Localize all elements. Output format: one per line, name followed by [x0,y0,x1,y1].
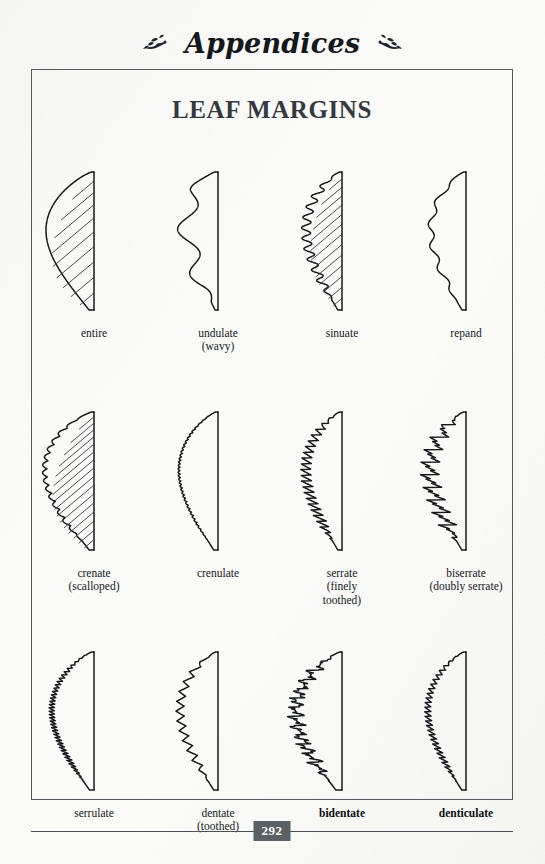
leaf-diagram-sinuate [280,166,404,318]
label-term: entire [81,327,107,339]
label-term: sinuate [326,327,359,339]
label-term: denticulate [439,807,493,819]
leaf-margin-label-denticulate: denticulate [439,807,493,820]
leaf-margin-label-serrulate: serrulate [74,807,114,820]
leaf-margin-label-serrate: serrate(finelytoothed) [323,567,361,607]
leaf-diagram-crenate [32,406,156,558]
leaf-diagram-bidentate [280,646,404,798]
leaf-margin-cell-undulate: undulate(wavy) [156,166,280,406]
label-synonym: toothed) [323,594,361,607]
label-term: bidentate [319,807,365,819]
label-term: serrulate [74,807,114,819]
leaf-margin-label-crenulate: crenulate [197,567,239,580]
label-term: repand [450,327,481,339]
leaf-diagram-biserrate [404,406,528,558]
leaf-margin-cell-entire: entire [32,166,156,406]
leaf-margin-cell-biserrate: biserrate(doubly serrate) [404,406,528,646]
leaf-diagram-entire [32,166,156,318]
leaf-margin-cell-repand: repand [404,166,528,406]
leaf-diagram-serrulate [32,646,156,798]
leaf-margin-label-crenate: crenate(scalloped) [68,567,119,594]
running-head: Appendices [0,24,545,66]
label-term: undulate [198,327,238,339]
page-number: 292 [254,821,291,841]
label-term: crenate [77,567,110,579]
running-head-title: Appendices [185,30,360,60]
leaf-margin-label-sinuate: sinuate [326,327,359,340]
leaf-diagram-denticulate [404,646,528,798]
leaf-margin-cell-crenulate: crenulate [156,406,280,646]
label-term: dentate [201,807,234,819]
page-title: LEAF MARGINS [32,96,512,124]
label-term: crenulate [197,567,239,579]
leaf-margin-label-repand: repand [450,327,481,340]
leaf-diagram-serrate [280,406,404,558]
leaf-margin-label-biserrate: biserrate(doubly serrate) [429,567,502,594]
leaf-margin-cell-crenate: crenate(scalloped) [32,406,156,646]
label-synonym: (doubly serrate) [429,580,502,593]
label-term: biserrate [446,567,486,579]
leaf-vine-ornament-left [142,32,176,58]
plate-frame: LEAF MARGINS entireundulate(wavy)sinuate… [31,69,513,800]
label-synonym: (wavy) [198,340,238,353]
leaf-vine-ornament-right [369,32,403,58]
leaf-margin-grid: entireundulate(wavy)sinuaterepand crenat… [32,166,512,864]
leaf-diagram-undulate [156,166,280,318]
leaf-margin-row: crenate(scalloped)crenulateserrate(finel… [32,406,512,646]
leaf-diagram-dentate [156,646,280,798]
leaf-diagram-crenulate [156,406,280,558]
leaf-diagram-repand [404,166,528,318]
leaf-margin-label-undulate: undulate(wavy) [198,327,238,354]
label-synonym: (scalloped) [68,580,119,593]
leaf-margin-row: entireundulate(wavy)sinuaterepand [32,166,512,406]
leaf-margin-label-bidentate: bidentate [319,807,365,820]
label-term: serrate [327,567,358,579]
leaf-margin-cell-serrate: serrate(finelytoothed) [280,406,404,646]
leaf-margin-cell-sinuate: sinuate [280,166,404,406]
folio: 292 [31,821,513,843]
leaf-margin-label-entire: entire [81,327,107,340]
label-synonym: (finely [323,580,361,593]
